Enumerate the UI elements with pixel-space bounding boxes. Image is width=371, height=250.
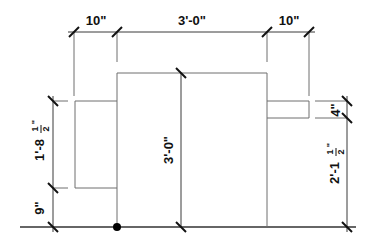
center-dimension: 3'-0" — [161, 68, 186, 232]
dim-label-center: 3'-0" — [161, 136, 176, 164]
left-block — [75, 101, 117, 188]
dimension-diagram: 10" 3'-0" 10" 1'-8 1 2 " 9" — [0, 0, 371, 250]
dim-label-right-upper: 4" — [328, 103, 343, 116]
dim-label-left-lower: 9" — [32, 201, 47, 214]
dim-label-left-upper: 1'-8 1 2 " — [30, 120, 51, 161]
main-block — [117, 73, 267, 227]
diagram-svg: 10" 3'-0" 10" 1'-8 1 2 " 9" — [0, 0, 371, 250]
svg-text:1'-8: 1'-8 — [32, 139, 47, 161]
svg-text:2: 2 — [41, 126, 51, 131]
svg-text:9": 9" — [32, 201, 47, 214]
dim-label-top-right: 10" — [279, 13, 300, 28]
svg-text:2: 2 — [336, 149, 346, 154]
svg-text:": " — [30, 120, 40, 124]
svg-text:4": 4" — [328, 103, 343, 116]
origin-point-icon — [113, 223, 121, 231]
svg-text:2'-1: 2'-1 — [327, 162, 342, 184]
dim-label-top-center: 3'-0" — [178, 13, 206, 28]
svg-text:1: 1 — [30, 126, 40, 131]
dim-label-right-lower: 2'-1 1 2 " — [325, 143, 346, 184]
top-dimension-string: 10" 3'-0" 10" — [68, 13, 315, 96]
dim-label-top-left: 10" — [86, 13, 107, 28]
svg-text:1: 1 — [325, 149, 335, 154]
left-dimension-string: 1'-8 1 2 " 9" — [30, 96, 68, 232]
svg-text:": " — [325, 143, 335, 147]
right-block — [267, 101, 309, 118]
right-dimension-string: 4" 2'-1 1 2 " — [315, 96, 352, 232]
svg-text:3'-0": 3'-0" — [161, 136, 176, 164]
